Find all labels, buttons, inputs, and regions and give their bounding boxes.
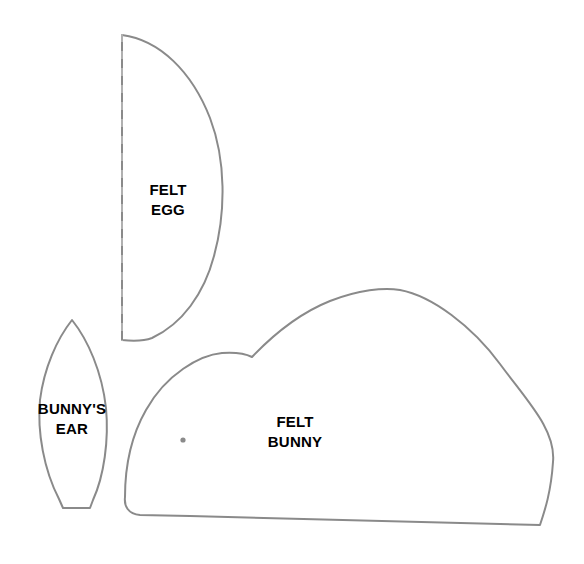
felt-bunny-label: FELT BUNNY — [240, 412, 350, 453]
felt-bunny-outline — [125, 289, 553, 525]
pattern-pieces-drawing — [0, 0, 584, 564]
piece-felt-bunny — [125, 289, 553, 525]
felt-egg-label: FELT EGG — [118, 180, 218, 221]
felt-bunny-eye-marking — [180, 437, 185, 442]
bunnys-ear-label: BUNNY'S EAR — [22, 399, 122, 440]
pattern-template-canvas: FELT EGG BUNNY'S EAR FELT BUNNY — [0, 0, 584, 564]
